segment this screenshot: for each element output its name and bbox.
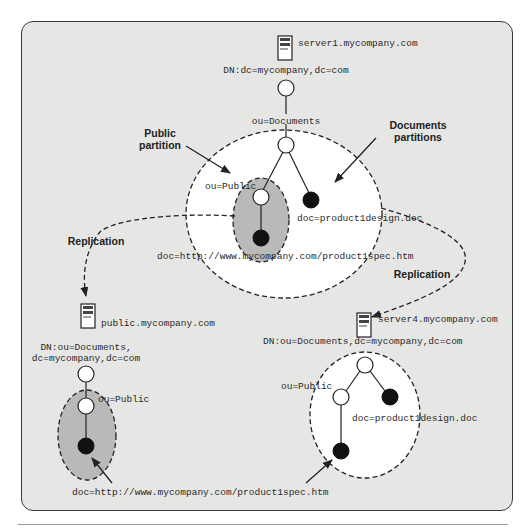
caption-separator [18, 524, 508, 525]
ou-public-label: ou=Public [205, 181, 257, 192]
replication-right-label: Replication [394, 268, 451, 280]
root-node [278, 80, 294, 96]
replication-right-arrow [372, 208, 465, 317]
documents-partitions-callout-line2: partitions [394, 131, 442, 143]
doc-spec-label: doc=http://www.mycompany.com/product1spe… [157, 251, 414, 262]
doc-spec-node [253, 230, 269, 246]
ldap-partition-replication-diagram: server1.mycompany.com DN:dc=mycompany,dc… [0, 0, 527, 532]
server4-label: server4.mycompany.com [378, 314, 498, 325]
doc-design-node [303, 192, 319, 208]
right-doc-design-node [382, 389, 398, 405]
public-server-dn-line1: DN:ou=Documents, [40, 342, 131, 353]
left-doc-spec-node [78, 438, 94, 454]
doc-design-label: doc=product1design.doc [297, 213, 423, 224]
public-server-label: public.mycompany.com [101, 318, 215, 329]
left-ou-public-label: ou=Public [98, 394, 150, 405]
right-ou-public-node [333, 389, 349, 405]
right-doc-spec-arrow [306, 460, 332, 483]
server1-dn: DN:dc=mycompany,dc=com [223, 65, 349, 76]
ou-documents-node [278, 137, 294, 153]
public-partition-callout-line1: Public [144, 127, 176, 139]
right-root-node [357, 357, 373, 373]
left-doc-spec-label: doc=http://www.mycompany.com/product1spe… [72, 487, 329, 498]
documents-partitions-callout-line1: Documents [389, 119, 446, 131]
ou-documents-label: ou=Documents [252, 116, 320, 127]
server1-label: server1.mycompany.com [298, 38, 418, 49]
left-ou-public-node [78, 398, 94, 414]
server1-icon [278, 36, 292, 60]
right-ou-public-label: ou=Public [281, 381, 333, 392]
replication-left-label: Replication [68, 235, 125, 247]
right-doc-design-label: doc=product1design.doc [352, 413, 478, 424]
server4-icon [357, 313, 371, 337]
left-root-node [78, 366, 94, 382]
right-doc-spec-node [333, 443, 349, 459]
public-server-icon [81, 304, 95, 328]
server4-dn: DN:ou=Documents,dc=mycompany,dc=com [263, 336, 463, 347]
public-server-dn-line2: dc=mycompany,dc=com [32, 353, 141, 364]
public-partition-callout-line2: partition [139, 139, 181, 151]
